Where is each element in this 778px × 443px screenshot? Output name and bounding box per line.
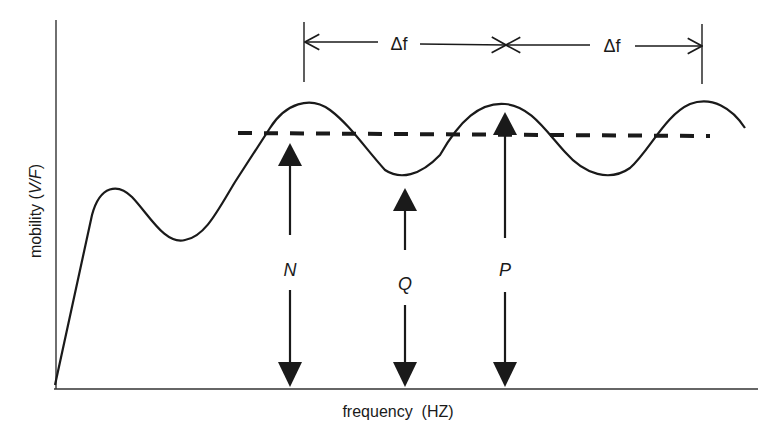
mobility-diagram: mobility (V/F) frequency (HZ) Δf Δf N Q …	[0, 0, 778, 443]
delta-f-label-2: Δf	[603, 36, 621, 56]
x-axis-label: frequency (HZ)	[342, 403, 453, 420]
marker-p-label: P	[499, 260, 511, 280]
arrow-up-icon	[493, 112, 517, 135]
marker-q-label: Q	[398, 274, 412, 294]
mean-level-dashed-line	[238, 133, 710, 136]
marker-p: P	[493, 112, 517, 387]
delta-f-label-1: Δf	[390, 34, 408, 54]
arrow-down-icon	[493, 362, 517, 387]
marker-q: Q	[393, 188, 417, 387]
arrow-up-icon	[278, 143, 302, 166]
delta-arrow-1-right	[420, 44, 506, 45]
marker-n-label: N	[284, 260, 298, 280]
arrow-down-icon	[278, 362, 302, 387]
marker-n: N	[278, 143, 302, 387]
arrow-up-icon	[393, 188, 417, 211]
y-axis-label: mobility (V/F)	[27, 164, 44, 258]
arrow-down-icon	[393, 362, 417, 387]
mobility-curve	[55, 101, 745, 385]
